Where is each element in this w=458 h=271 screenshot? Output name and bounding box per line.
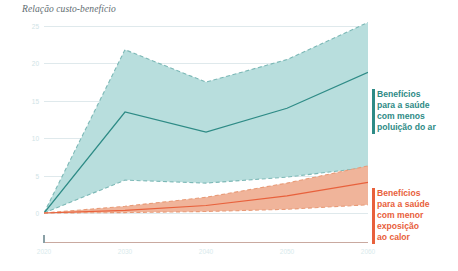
ytick-label-25: 25 — [32, 23, 39, 30]
xtick-label-2020: 2020 — [37, 248, 51, 255]
xtick-label-2040: 2040 — [199, 248, 213, 255]
legend-label-air-pollution: Benefícios para a saúde com menos poluiç… — [377, 89, 436, 133]
legend-marker-air-pollution — [372, 89, 375, 134]
chart-container: Relação custo-benefício 25 20 15 10 5 0 — [0, 0, 458, 271]
y-axis-origin-tick — [43, 235, 45, 243]
xtick-label-2030: 2030 — [118, 248, 132, 255]
series-layer — [44, 20, 368, 243]
ytick-label-20: 20 — [32, 60, 39, 67]
ytick-label-10: 10 — [32, 135, 39, 142]
plot-area: 25 20 15 10 5 0 2020 2030 — [44, 20, 368, 243]
ytick-label-5: 5 — [35, 172, 39, 179]
chart-title: Relação custo-benefício — [22, 4, 116, 14]
ytick-label-15: 15 — [32, 97, 39, 104]
xtick-label-2060: 2060 — [361, 248, 375, 255]
legend-label-heat-exposure: Benefícios para a saúde com menor exposi… — [377, 188, 430, 243]
ytick-label-0: 0 — [35, 210, 39, 217]
x-axis-baseline — [44, 242, 368, 243]
xtick-label-2050: 2050 — [280, 248, 294, 255]
legend-marker-heat-exposure — [372, 188, 375, 244]
